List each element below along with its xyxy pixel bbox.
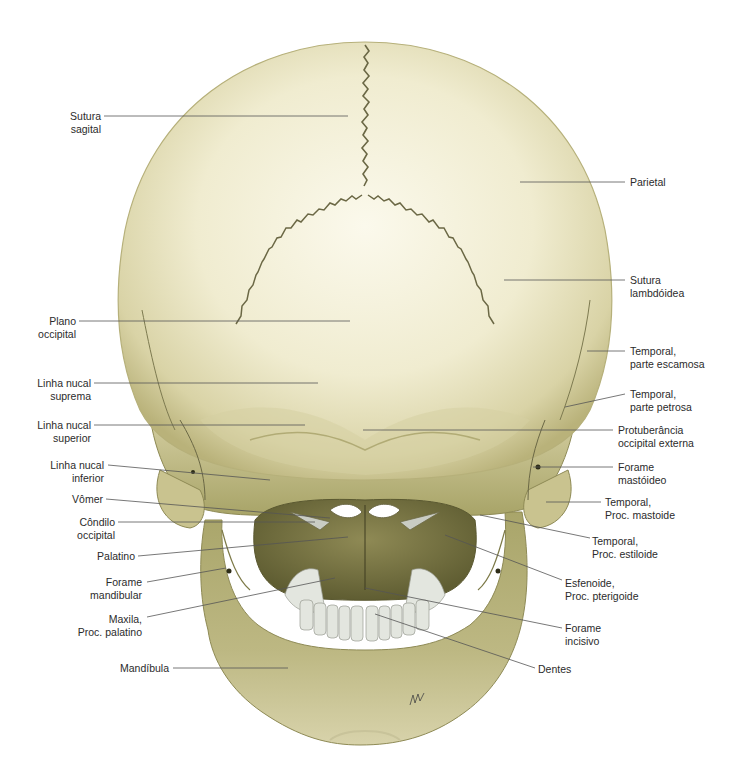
- label-vomer: Vômer: [72, 493, 103, 506]
- label-mandibula: Mandíbula: [120, 662, 169, 675]
- label-protuberancia-occipital-externa: Protuberância occipital externa: [618, 424, 694, 450]
- label-palatino: Palatino: [97, 550, 135, 563]
- label-forame-incisivo: Forame incisivo: [565, 622, 601, 648]
- label-temporal-parte-escamosa: Temporal, parte escamosa: [630, 345, 705, 371]
- label-dentes: Dentes: [538, 663, 571, 676]
- label-forame-mandibular: Forame mandibular: [90, 576, 142, 602]
- label-sutura-lambdoidea: Sutura lambdóidea: [630, 274, 684, 300]
- label-linha-nucal-superior: Linha nucal superior: [37, 419, 91, 445]
- label-maxila-proc-palatino: Maxila, Proc. palatino: [78, 613, 142, 639]
- label-parietal: Parietal: [630, 176, 666, 189]
- label-condilo-occipital: Côndilo occipital: [77, 516, 115, 542]
- label-temporal-proc-estiloide: Temporal, Proc. estiloide: [592, 535, 658, 561]
- label-linha-nucal-suprema: Linha nucal suprema: [37, 377, 91, 403]
- label-temporal-parte-petrosa: Temporal, parte petrosa: [630, 388, 692, 414]
- label-linha-nucal-inferior: Linha nucal inferior: [50, 459, 104, 485]
- label-esfenoide-proc-pterigoide: Esfenoide, Proc. pterigoide: [565, 577, 639, 603]
- label-sutura-sagital: Sutura sagital: [70, 110, 101, 136]
- label-plano-occipital: Plano occipital: [38, 315, 76, 341]
- label-temporal-proc-mastoide: Temporal, Proc. mastoide: [605, 496, 675, 522]
- skull-posterior-view-illustration: [0, 0, 737, 774]
- label-forame-mastoideo: Forame mastóideo: [618, 461, 666, 487]
